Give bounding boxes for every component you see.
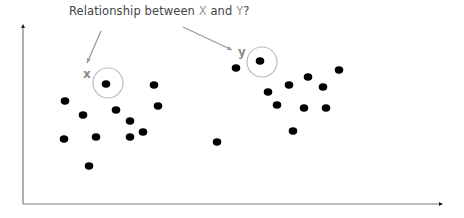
data-point xyxy=(335,66,344,73)
y-marker-label: y xyxy=(238,45,246,59)
data-point xyxy=(139,128,148,135)
data-point xyxy=(154,102,163,109)
scatter-diagram xyxy=(0,0,464,218)
annotation-arrows xyxy=(87,27,232,63)
data-point xyxy=(285,81,294,88)
data-point xyxy=(112,106,121,113)
data-point xyxy=(322,104,331,111)
data-point xyxy=(289,127,298,134)
x-axis-arrowhead-icon xyxy=(439,202,443,206)
data-point xyxy=(92,133,101,140)
data-point xyxy=(256,57,265,64)
diagram-title: Relationship between X and Y? xyxy=(69,4,250,18)
highlight-circles xyxy=(93,47,277,98)
data-point xyxy=(150,81,159,88)
arrow-line-0 xyxy=(87,31,101,63)
data-point xyxy=(273,101,282,108)
title-mid: and xyxy=(207,4,236,18)
title-prefix: Relationship between xyxy=(69,4,199,18)
data-point xyxy=(126,133,135,140)
y-axis-arrowhead-icon xyxy=(21,24,25,28)
arrow-line-1 xyxy=(183,27,232,50)
data-point xyxy=(213,138,222,145)
data-points xyxy=(60,57,344,169)
data-point xyxy=(304,73,313,80)
data-point xyxy=(126,117,135,124)
title-suffix: ? xyxy=(243,4,249,18)
data-point xyxy=(232,64,241,71)
data-point xyxy=(264,88,273,95)
x-marker-label: x xyxy=(83,67,91,81)
data-point xyxy=(85,162,94,169)
title-var-x: X xyxy=(199,4,207,18)
data-point xyxy=(319,83,328,90)
data-point xyxy=(102,80,111,87)
data-point xyxy=(300,104,309,111)
data-point xyxy=(79,111,88,118)
data-point xyxy=(60,135,69,142)
data-point xyxy=(61,97,70,104)
